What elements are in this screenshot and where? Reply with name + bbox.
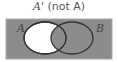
label-b: B xyxy=(95,22,104,35)
venn-diagram: A B xyxy=(0,0,118,62)
label-a: A xyxy=(16,22,25,35)
